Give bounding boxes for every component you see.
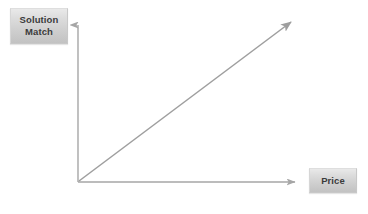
y-axis-label-line-2: Match xyxy=(25,26,53,38)
trend-line-arrow xyxy=(79,22,291,181)
y-axis-label-solution-match: Solution Match xyxy=(10,8,68,44)
x-axis-label-line-1: Price xyxy=(321,175,345,187)
x-axis-label-price: Price xyxy=(309,168,357,193)
chart-figure: Solution Match Price xyxy=(0,0,368,214)
y-axis-label-line-1: Solution xyxy=(20,14,59,26)
